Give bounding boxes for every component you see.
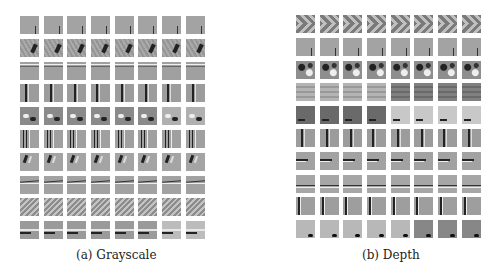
filter-tile bbox=[115, 84, 134, 102]
filter-tile bbox=[20, 198, 39, 216]
filter-tile bbox=[20, 221, 39, 239]
filter-tile bbox=[414, 220, 433, 238]
filter-tile bbox=[438, 152, 457, 170]
filter-tile bbox=[414, 15, 433, 33]
filter-tile bbox=[115, 107, 134, 125]
filter-tile bbox=[20, 153, 39, 171]
filter-tile bbox=[91, 39, 110, 57]
filter-tile bbox=[296, 152, 315, 170]
filter-tile bbox=[438, 175, 457, 193]
filter-tile bbox=[296, 220, 315, 238]
filter-tile bbox=[186, 84, 205, 102]
filter-tile bbox=[367, 83, 386, 101]
filter-tile bbox=[343, 15, 362, 33]
filter-tile bbox=[115, 198, 134, 216]
filter-tile bbox=[367, 106, 386, 124]
filter-tile bbox=[162, 39, 181, 57]
filter-tile bbox=[320, 83, 339, 101]
filter-tile bbox=[138, 130, 157, 148]
filter-tile bbox=[67, 198, 86, 216]
filter-tile bbox=[44, 198, 63, 216]
filter-tile bbox=[138, 153, 157, 171]
filter-tile bbox=[162, 221, 181, 239]
filter-tile bbox=[115, 39, 134, 57]
filter-tile bbox=[162, 84, 181, 102]
filter-tile bbox=[462, 197, 481, 215]
filter-tile bbox=[343, 175, 362, 193]
filter-tile bbox=[67, 16, 86, 34]
filter-tile bbox=[162, 130, 181, 148]
filter-tile bbox=[44, 176, 63, 194]
filter-tile bbox=[91, 153, 110, 171]
filter-tile bbox=[462, 38, 481, 56]
filter-tile bbox=[438, 38, 457, 56]
filter-tile bbox=[438, 15, 457, 33]
filter-tile bbox=[115, 176, 134, 194]
filter-tile bbox=[391, 129, 410, 147]
filter-tile bbox=[138, 107, 157, 125]
filter-tile bbox=[343, 61, 362, 79]
filter-tile bbox=[320, 61, 339, 79]
filter-tile bbox=[115, 62, 134, 80]
filter-tile bbox=[343, 83, 362, 101]
filter-tile bbox=[115, 130, 134, 148]
filter-tile bbox=[138, 16, 157, 34]
filter-tile bbox=[462, 175, 481, 193]
filter-tile bbox=[367, 129, 386, 147]
filter-tile bbox=[296, 61, 315, 79]
filter-tile bbox=[438, 220, 457, 238]
filter-tile bbox=[44, 107, 63, 125]
filter-tile bbox=[367, 15, 386, 33]
filter-tile bbox=[296, 175, 315, 193]
filter-tile bbox=[367, 61, 386, 79]
panel-depth: (b) Depth bbox=[247, 0, 494, 274]
filter-tile bbox=[91, 198, 110, 216]
filter-tile bbox=[391, 220, 410, 238]
caption-grayscale: (a) Grayscale bbox=[76, 248, 157, 262]
filter-tile bbox=[44, 153, 63, 171]
filter-tile bbox=[186, 130, 205, 148]
filter-tile bbox=[44, 84, 63, 102]
filter-grid-depth bbox=[296, 15, 481, 238]
filter-tile bbox=[320, 106, 339, 124]
filter-tile bbox=[320, 220, 339, 238]
filter-tile bbox=[115, 221, 134, 239]
filter-tile bbox=[438, 83, 457, 101]
filter-tile bbox=[320, 152, 339, 170]
filter-tile bbox=[391, 197, 410, 215]
filter-tile bbox=[343, 129, 362, 147]
filter-tile bbox=[162, 198, 181, 216]
filter-tile bbox=[67, 84, 86, 102]
filter-tile bbox=[438, 61, 457, 79]
filter-tile bbox=[91, 62, 110, 80]
filter-tile bbox=[462, 61, 481, 79]
filter-tile bbox=[414, 197, 433, 215]
filter-tile bbox=[462, 152, 481, 170]
filter-tile bbox=[67, 39, 86, 57]
filter-tile bbox=[391, 175, 410, 193]
filter-tile bbox=[67, 107, 86, 125]
filter-tile bbox=[44, 221, 63, 239]
filter-tile bbox=[367, 197, 386, 215]
filter-tile bbox=[186, 198, 205, 216]
filter-tile bbox=[138, 221, 157, 239]
filter-tile bbox=[186, 62, 205, 80]
filter-tile bbox=[91, 221, 110, 239]
filter-tile bbox=[44, 130, 63, 148]
filter-tile bbox=[20, 62, 39, 80]
filter-tile bbox=[296, 15, 315, 33]
filter-tile bbox=[115, 16, 134, 34]
filter-tile bbox=[296, 129, 315, 147]
filter-tile bbox=[296, 106, 315, 124]
filter-tile bbox=[91, 84, 110, 102]
filter-tile bbox=[162, 176, 181, 194]
filter-tile bbox=[343, 152, 362, 170]
filter-tile bbox=[367, 152, 386, 170]
filter-tile bbox=[67, 176, 86, 194]
filter-tile bbox=[162, 107, 181, 125]
filter-tile bbox=[391, 152, 410, 170]
filter-tile bbox=[20, 39, 39, 57]
filter-tile bbox=[391, 15, 410, 33]
filter-tile bbox=[186, 16, 205, 34]
panel-grayscale: (a) Grayscale bbox=[0, 0, 247, 274]
